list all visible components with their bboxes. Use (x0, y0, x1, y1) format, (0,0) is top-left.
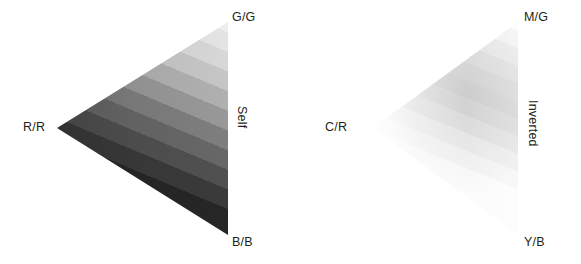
panel-inverted: M/G C/R Y/B Inverted (291, 0, 581, 264)
self-side-label: Self (236, 106, 249, 128)
inverted-vertex-label-top: M/G (524, 11, 548, 24)
self-vertex-label-bottom: B/B (232, 236, 253, 249)
inverted-side-label: Inverted (527, 100, 540, 147)
inverted-vertex-label-bottom: Y/B (524, 236, 545, 249)
panel-self: G/G R/R B/B Self (0, 0, 290, 264)
triangle-figure: G/G R/R B/B Self (0, 0, 581, 264)
self-vertex-label-top: G/G (232, 11, 256, 24)
self-vertex-label-left: R/R (23, 121, 45, 134)
inverted-vertex-label-left: C/R (325, 121, 347, 134)
